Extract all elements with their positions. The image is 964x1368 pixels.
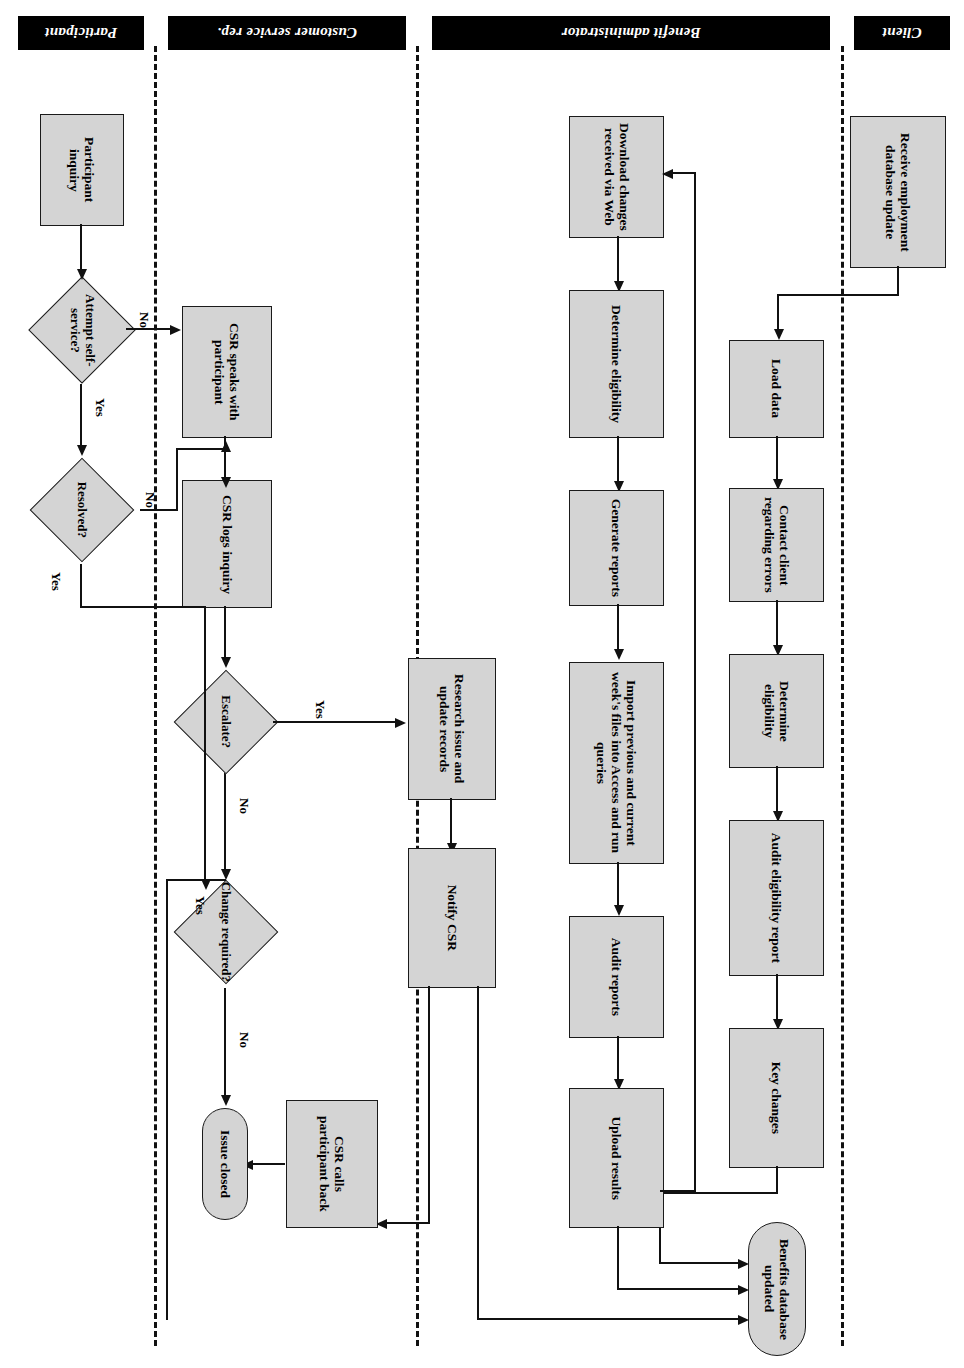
connector-receive-to-load-v2: [777, 294, 779, 330]
node-import-previous-and-current-week-files-label: Import previous and current week's files…: [594, 665, 639, 861]
node-attempt-self-service[interactable]: Attempt self-service?: [30, 272, 134, 388]
connector-receive-to-load-h: [778, 294, 899, 296]
connector-generate-to-import: [617, 604, 619, 650]
connector-download-to-determine2: [617, 236, 619, 282]
arrow-to-benefits-db-from-notify: [738, 1315, 749, 1325]
node-audit-eligibility-report-label: Audit eligibility report: [769, 833, 784, 963]
connector-resolved-yes-v2: [204, 606, 206, 808]
lane-label-participant: Participant: [18, 16, 144, 50]
connector-csrlogs-to-escalate: [224, 606, 226, 658]
arrow-to-csr-speaks-from-self-service: [170, 325, 181, 335]
node-receive-employment-database-update[interactable]: Receive employment database update: [850, 116, 946, 268]
node-contact-client-regarding-errors[interactable]: Contact client regarding errors: [729, 488, 824, 602]
connector-upload-to-db-v: [617, 1226, 619, 1290]
node-resolved[interactable]: Resolved?: [30, 454, 134, 566]
arrow-to-resolved: [77, 445, 87, 456]
rotated-canvas: Client Benefit administrator Customer se…: [0, 0, 964, 1368]
connector-resolved-no-v: [176, 449, 178, 511]
connector-notify-to-csrcalls-v: [428, 986, 430, 1224]
node-attempt-self-service-label-wrap: Attempt self-service?: [30, 272, 134, 388]
node-benefits-database-updated[interactable]: Benefits database updated: [748, 1222, 806, 1356]
arrow-to-download-changes: [662, 169, 673, 179]
node-csr-speaks-with-participant-label: CSR speaks with participant: [212, 309, 242, 435]
node-load-data-label: Load data: [769, 360, 784, 419]
connector-determine2-to-generate: [617, 436, 619, 482]
node-resolved-label-wrap: Resolved?: [30, 454, 134, 566]
edge-label-self-service-no: No: [136, 312, 152, 348]
node-issue-closed-label: Issue closed: [217, 1130, 232, 1198]
connector-keychanges-corner: [734, 1192, 778, 1194]
edge-label-change-required-no: No: [236, 1032, 252, 1068]
connector-changereq-yes-h: [166, 879, 226, 881]
connector-import-to-audit-reports: [617, 862, 619, 906]
edge-label-change-required-yes-text: Yes: [193, 896, 208, 915]
node-import-previous-and-current-week-files[interactable]: Import previous and current week's files…: [569, 662, 664, 864]
connector-csrcalls-to-issueclosed: [251, 1163, 285, 1165]
node-determine-eligibility-1[interactable]: Determine eligibility: [729, 654, 824, 768]
arrow-to-csr-speaks-from-resolved: [221, 441, 231, 452]
connector-research-to-notify: [450, 798, 452, 844]
node-generate-reports[interactable]: Generate reports: [569, 490, 664, 606]
node-csr-logs-inquiry[interactable]: CSR logs inquiry: [182, 480, 272, 608]
node-receive-employment-database-update-label: Receive employment database update: [883, 119, 913, 265]
edge-label-self-service-yes: Yes: [92, 398, 108, 438]
connector-participant-to-selfservice: [80, 224, 82, 270]
edge-label-self-service-yes-text: Yes: [93, 398, 108, 417]
edge-label-escalate-no-text: No: [237, 798, 252, 814]
node-escalate-label: Escalate?: [219, 696, 234, 749]
connector-notify-to-csrcalls-h: [386, 1222, 430, 1224]
connector-load-to-contact: [776, 436, 778, 480]
node-research-issue-and-update-records-label: Research issue and update records: [437, 661, 467, 797]
node-notify-csr-label: Notify CSR: [444, 885, 459, 951]
node-key-changes[interactable]: Key changes: [729, 1028, 824, 1168]
node-determine-eligibility-2[interactable]: Determine eligibility: [569, 290, 664, 438]
node-download-changes-received-via-web[interactable]: Download changes received via Web: [569, 116, 664, 238]
arrow-to-attempt-self-service: [77, 269, 87, 280]
node-audit-eligibility-report[interactable]: Audit eligibility report: [729, 820, 824, 976]
node-escalate[interactable]: Escalate?: [178, 666, 274, 778]
connector-loop-to-download-h-top: [660, 1190, 696, 1192]
edge-label-resolved-yes-text: Yes: [49, 572, 64, 591]
edge-label-escalate-yes: Yes: [312, 700, 328, 740]
edge-label-resolved-yes: Yes: [48, 572, 64, 612]
node-contact-client-regarding-errors-label: Contact client regarding errors: [761, 491, 791, 599]
node-download-changes-received-via-web-label: Download changes received via Web: [601, 119, 631, 235]
node-csr-calls-participant-back[interactable]: CSR calls participant back: [286, 1100, 378, 1228]
connector-notify-to-db-h: [478, 1318, 740, 1320]
node-determine-eligibility-2-label: Determine eligibility: [609, 305, 624, 423]
connector-upload-to-db-h: [618, 1288, 740, 1290]
node-key-changes-label: Key changes: [769, 1062, 784, 1134]
connector-resolved-yes-v1: [80, 564, 82, 608]
node-upload-results-label: Upload results: [609, 1116, 624, 1199]
node-csr-logs-inquiry-label: CSR logs inquiry: [219, 494, 234, 593]
lane-separator-csr-participant: [154, 46, 157, 1346]
node-change-required[interactable]: Change required?: [176, 876, 276, 988]
node-change-required-label-wrap: Change required?: [176, 876, 276, 988]
node-issue-closed[interactable]: Issue closed: [202, 1108, 248, 1220]
edge-label-change-required-no-text: No: [237, 1032, 252, 1048]
node-audit-reports[interactable]: Audit reports: [569, 916, 664, 1038]
arrow-to-change-required: [221, 869, 231, 880]
node-escalate-label-wrap: Escalate?: [178, 666, 274, 778]
node-upload-results[interactable]: Upload results: [569, 1088, 664, 1228]
arrow-to-escalate: [221, 657, 231, 668]
connector-determine1-to-audit-report: [776, 766, 778, 812]
edge-label-self-service-no-text: No: [137, 312, 152, 328]
connector-audit-report-to-key-changes: [776, 974, 778, 1020]
node-participant-inquiry[interactable]: Participant inquiry: [40, 114, 124, 226]
node-load-data[interactable]: Load data: [729, 340, 824, 438]
node-attempt-self-service-label: Attempt self-service?: [67, 272, 96, 388]
node-research-issue-and-update-records[interactable]: Research issue and update records: [408, 658, 496, 800]
arrow-to-import-files: [614, 649, 624, 660]
lane-label-participant-text: Participant: [45, 25, 117, 42]
connector-keychanges-to-db-h: [660, 1192, 736, 1194]
edge-label-escalate-no: No: [236, 798, 252, 834]
node-notify-csr[interactable]: Notify CSR: [408, 848, 496, 988]
connector-selfservice-yes-v: [80, 384, 82, 446]
lane-label-customer-service-rep: Customer service rep.: [168, 16, 406, 50]
arrow-to-benefits-db-from-upload: [738, 1285, 749, 1295]
node-csr-calls-participant-back-label: CSR calls participant back: [317, 1103, 347, 1225]
edge-label-resolved-no-text: No: [143, 492, 158, 508]
node-csr-speaks-with-participant[interactable]: CSR speaks with participant: [182, 306, 272, 438]
lane-label-client: Client: [854, 16, 950, 50]
